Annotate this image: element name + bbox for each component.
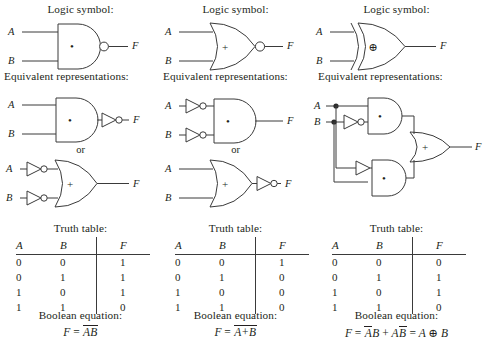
- table-row: 0 0 0: [332, 255, 466, 270]
- column-nor: Logic symbol: + A B F Equivalent represe…: [161, 0, 310, 356]
- nor-equivalent-2: + A B F: [161, 158, 310, 218]
- inverter-bubble-icon: [358, 119, 364, 125]
- or-separator: or: [161, 144, 310, 155]
- input-label-b: B: [8, 128, 15, 139]
- input-label-a: A: [7, 26, 15, 37]
- table-header-row: A B F: [175, 238, 309, 255]
- input-label-a: A: [7, 99, 15, 110]
- boolean-equation: F = A+B: [161, 326, 310, 338]
- header-b: B: [219, 238, 265, 255]
- logic-symbol-heading: Logic symbol:: [310, 3, 483, 15]
- equation-term: AB: [83, 325, 98, 338]
- boolean-equation-heading: Boolean equation:: [0, 309, 161, 321]
- equation-term: A+B: [234, 325, 257, 338]
- header-a: A: [332, 238, 376, 255]
- input-label-b: B: [6, 192, 13, 203]
- logic-symbol-heading: Logic symbol:: [0, 3, 161, 15]
- and-dot-glyph: •: [382, 172, 386, 184]
- equivalent-heading: Equivalent representations:: [4, 70, 165, 82]
- table-header-row: A B F: [16, 238, 150, 255]
- output-label-f: F: [131, 40, 139, 51]
- boolean-equation: F = AB + AB = A ⊕ B: [310, 326, 483, 340]
- input-label-a: A: [164, 163, 172, 174]
- output-label-f: F: [286, 40, 294, 51]
- inverter-bubble-icon: [200, 132, 206, 138]
- truth-table-heading: Truth table:: [310, 222, 483, 234]
- and-dot-glyph: •: [226, 115, 230, 127]
- or-plus-glyph: +: [422, 141, 428, 153]
- truth-table: A B F 0 0 0 0 1 1 1 0 1 1 1 0: [332, 238, 466, 315]
- header-f: F: [265, 238, 309, 255]
- header-f: F: [422, 238, 466, 255]
- equation-term: A: [392, 327, 399, 339]
- header-a: A: [16, 238, 60, 255]
- and-dot-glyph: •: [68, 114, 72, 126]
- equation-op: =: [407, 327, 419, 339]
- output-bubble-icon: [100, 42, 109, 51]
- inverter-bubble-icon: [271, 180, 277, 186]
- logic-symbol-heading: Logic symbol:: [161, 3, 310, 15]
- truth-table-heading: Truth table:: [0, 222, 161, 234]
- column-nand: Logic symbol: • A B F Equivalent represe…: [0, 0, 161, 356]
- input-label-a: A: [164, 100, 172, 111]
- header-f: F: [106, 238, 150, 255]
- input-label-a: A: [5, 163, 13, 174]
- table-row: 1 0 0: [175, 285, 309, 300]
- header-b: B: [60, 238, 106, 255]
- or-plus-glyph: +: [222, 178, 228, 190]
- inverter-bubble-icon: [200, 103, 206, 109]
- column-xor: Logic symbol: ⊕ A B F Equivalent represe…: [310, 0, 483, 356]
- output-label-f: F: [284, 178, 292, 189]
- output-bubble-icon: [255, 42, 264, 51]
- inverter-bubble-icon: [41, 195, 47, 201]
- input-label-b: B: [314, 116, 321, 127]
- or-separator: or: [0, 144, 161, 155]
- table-header-row: A B F: [332, 238, 466, 255]
- input-label-a: A: [315, 26, 323, 37]
- output-label-f: F: [474, 141, 482, 152]
- and-dot-glyph: •: [378, 110, 382, 122]
- input-label-b: B: [165, 129, 172, 140]
- truth-table: A B F 0 0 1 0 1 0 1 0 0 1 1 0: [175, 238, 309, 315]
- nor-logic-symbol: + A B F: [161, 18, 310, 78]
- nand-equivalent-2: + A B F: [0, 158, 161, 218]
- nand-logic-symbol: • A B F: [0, 18, 161, 78]
- output-label-f: F: [286, 115, 294, 126]
- table-row: 0 1 0: [175, 270, 309, 285]
- header-a: A: [175, 238, 219, 255]
- input-label-b: B: [8, 55, 15, 66]
- table-row: 1 0 1: [332, 285, 466, 300]
- inverter-bubble-icon: [116, 117, 122, 123]
- equation-term: A ⊕ B: [419, 327, 448, 339]
- table-row: 0 1 1: [332, 270, 466, 285]
- table-row: 0 0 1: [16, 255, 150, 270]
- input-label-a: A: [164, 26, 172, 37]
- or-plus-glyph: +: [222, 41, 228, 53]
- table-row: 1 0 1: [16, 285, 150, 300]
- and-dot-glyph: •: [70, 40, 74, 52]
- boolean-equation-heading: Boolean equation:: [310, 309, 483, 321]
- equivalent-heading: Equivalent representations:: [318, 70, 483, 82]
- table-row: 0 0 1: [175, 255, 309, 270]
- equation-term: B: [399, 326, 407, 339]
- output-label-f: F: [132, 114, 140, 125]
- equation-lhs: F: [345, 327, 352, 339]
- input-label-b: B: [165, 55, 172, 66]
- output-label-f: F: [132, 178, 140, 189]
- truth-table: A B F 0 0 1 0 1 1 1 0 1 1 1 0: [16, 238, 150, 315]
- boolean-equation-heading: Boolean equation:: [161, 309, 310, 321]
- equation-op: +: [379, 327, 391, 339]
- table-row: 0 1 1: [16, 270, 150, 285]
- xor-equivalent-circuit: • • + A B F: [310, 94, 483, 212]
- input-label-b: B: [165, 192, 172, 203]
- inverter-bubble-icon: [41, 166, 47, 172]
- input-label-a: A: [313, 100, 321, 111]
- or-plus-glyph: +: [67, 178, 73, 190]
- input-label-b: B: [316, 55, 323, 66]
- boolean-equation: F = AB: [0, 326, 161, 338]
- truth-table-heading: Truth table:: [161, 222, 310, 234]
- output-label-f: F: [439, 40, 447, 51]
- equivalent-heading: Equivalent representations:: [163, 70, 312, 82]
- header-b: B: [376, 238, 422, 255]
- xor-glyph: ⊕: [368, 41, 377, 53]
